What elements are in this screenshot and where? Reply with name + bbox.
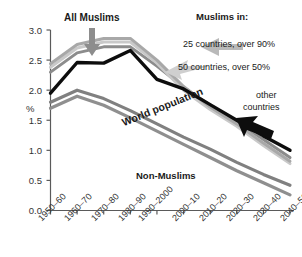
y-axis-title: % bbox=[26, 103, 34, 114]
y-tick-label-0.5: 0.5 bbox=[10, 175, 42, 186]
annotation-50-countries: 50 countries, over 50% bbox=[178, 62, 270, 72]
y-tick-label-2.5: 2.5 bbox=[10, 55, 42, 66]
y-tick-label-2.0: 2.0 bbox=[10, 85, 42, 96]
y-tick-label-1.5: 1.5 bbox=[10, 115, 42, 126]
chart-container: 3.0 2.5 2.0 1.5 1.0 0.5 0.0 % 1950–60 19… bbox=[0, 0, 302, 257]
annotation-all-muslims: All Muslims bbox=[64, 12, 120, 23]
annotation-25-countries: 25 countries, over 90% bbox=[183, 39, 275, 49]
annotation-other: other bbox=[256, 90, 277, 100]
annotation-other-countries: countries bbox=[243, 102, 280, 112]
y-tick-label-1.0: 1.0 bbox=[10, 145, 42, 156]
annotation-non-muslims: Non-Muslims bbox=[136, 170, 196, 181]
y-tick-label-3.0: 3.0 bbox=[10, 25, 42, 36]
annotation-muslims-in: Muslims in: bbox=[196, 11, 248, 22]
